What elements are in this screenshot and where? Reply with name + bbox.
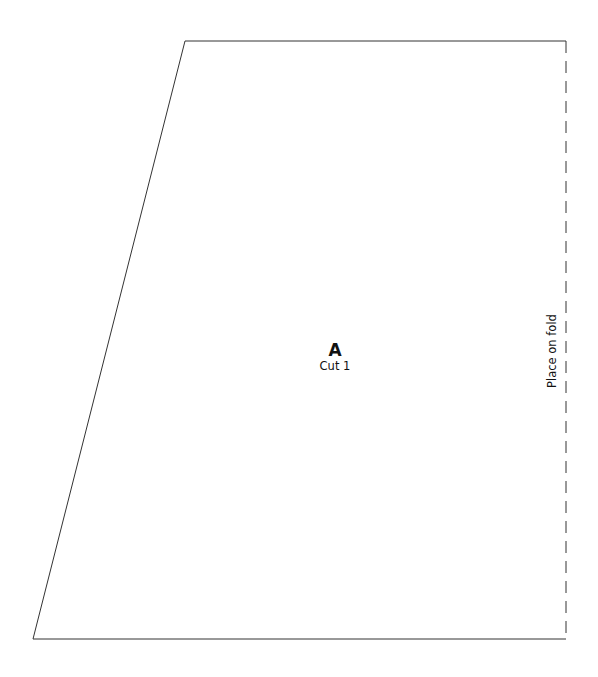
pattern-piece-outline [0,0,598,677]
piece-label: A Cut 1 [300,341,370,373]
fold-label: Place on fold [545,314,559,388]
piece-letter: A [300,341,370,359]
left-cut-line [33,41,185,639]
cut-instruction: Cut 1 [300,359,370,373]
